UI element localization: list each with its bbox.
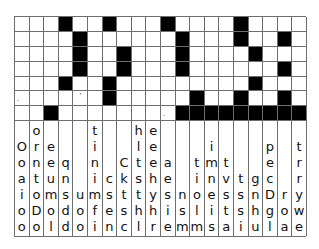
letter-tile[interactable]: e [105, 203, 113, 219]
answer-cell[interactable] [292, 77, 307, 92]
answer-cell[interactable] [59, 91, 74, 106]
answer-cell[interactable] [205, 32, 220, 47]
answer-cell[interactable] [161, 62, 176, 77]
answer-cell[interactable] [205, 77, 220, 92]
letter-tile[interactable]: u [251, 219, 259, 235]
answer-cell[interactable] [146, 32, 161, 47]
answer-cell[interactable] [161, 91, 176, 106]
answer-cell[interactable] [205, 62, 220, 77]
letter-tile[interactable]: n [91, 155, 99, 171]
letter-tile[interactable]: m [88, 187, 101, 203]
letter-tile[interactable]: e [295, 219, 303, 235]
letter-tile[interactable]: t [297, 139, 302, 155]
letter-tile[interactable]: l [268, 219, 272, 235]
answer-cell[interactable] [30, 77, 45, 92]
letter-tile[interactable]: n [178, 187, 186, 203]
letter-tile[interactable]: s [179, 203, 186, 219]
letter-tile[interactable]: t [224, 203, 229, 219]
answer-cell[interactable] [278, 47, 293, 62]
letter-tile[interactable]: w [294, 203, 305, 219]
letter-tile[interactable]: i [210, 203, 214, 219]
answer-cell[interactable] [263, 47, 278, 62]
answer-cell[interactable] [234, 62, 249, 77]
letter-tile[interactable]: h [149, 171, 157, 187]
answer-cell[interactable] [249, 32, 264, 47]
letter-tile[interactable]: u [47, 171, 55, 187]
letter-tile[interactable]: s [62, 187, 69, 203]
letter-tile[interactable]: o [18, 203, 26, 219]
letter-tile[interactable]: g [266, 203, 274, 219]
answer-cell[interactable] [132, 91, 147, 106]
answer-cell[interactable] [88, 17, 103, 32]
answer-cell[interactable] [292, 47, 307, 62]
answer-cell[interactable] [292, 32, 307, 47]
answer-cell[interactable] [263, 77, 278, 92]
letter-tile[interactable]: i [166, 203, 170, 219]
answer-cell[interactable] [219, 17, 234, 32]
letter-tile[interactable]: t [136, 187, 141, 203]
answer-cell[interactable] [117, 77, 132, 92]
answer-cell[interactable] [176, 77, 191, 92]
answer-cell[interactable] [132, 62, 147, 77]
letter-tile[interactable]: o [32, 219, 40, 235]
letter-tile[interactable]: a [222, 219, 230, 235]
answer-cell[interactable] [190, 17, 205, 32]
answer-cell[interactable] [103, 62, 118, 77]
letter-tile[interactable]: i [93, 139, 97, 155]
letter-tile[interactable]: t [194, 155, 199, 171]
answer-cell[interactable] [190, 62, 205, 77]
answer-cell[interactable] [132, 17, 147, 32]
letter-tile[interactable]: o [281, 203, 289, 219]
answer-cell[interactable] [59, 62, 74, 77]
letter-tile[interactable]: i [239, 219, 243, 235]
answer-cell[interactable] [59, 47, 74, 62]
letter-tile[interactable]: f [92, 203, 97, 219]
answer-cell[interactable] [205, 47, 220, 62]
answer-cell[interactable] [278, 77, 293, 92]
answer-cell[interactable] [88, 62, 103, 77]
letter-tile[interactable]: i [195, 171, 199, 187]
letter-tile[interactable]: m [205, 155, 218, 171]
answer-cell[interactable] [30, 47, 45, 62]
answer-cell[interactable] [234, 47, 249, 62]
letter-tile[interactable]: O [17, 139, 27, 155]
letter-tile[interactable]: s [106, 187, 113, 203]
answer-cell[interactable] [249, 17, 264, 32]
letter-tile[interactable]: n [105, 219, 113, 235]
answer-cell[interactable] [103, 47, 118, 62]
letter-tile[interactable]: e [164, 219, 172, 235]
answer-cell[interactable] [132, 106, 147, 121]
letter-tile[interactable]: n [32, 155, 40, 171]
answer-cell[interactable] [263, 17, 278, 32]
letter-tile[interactable]: o [47, 203, 55, 219]
answer-cell[interactable] [132, 77, 147, 92]
letter-tile[interactable]: y [149, 187, 157, 203]
letter-tile[interactable]: s [223, 187, 230, 203]
letter-tile[interactable]: i [210, 139, 214, 155]
answer-cell[interactable] [278, 17, 293, 32]
letter-tile[interactable]: e [208, 187, 216, 203]
letter-tile[interactable]: r [282, 187, 287, 203]
answer-cell[interactable] [44, 77, 59, 92]
letter-tile[interactable]: o [18, 219, 26, 235]
letter-tile[interactable]: t [224, 155, 229, 171]
answer-cell[interactable] [103, 32, 118, 47]
letter-tile[interactable]: h [251, 203, 259, 219]
answer-cell[interactable] [117, 106, 132, 121]
answer-cell[interactable] [59, 32, 74, 47]
letter-tile[interactable]: m [45, 187, 58, 203]
letter-tile[interactable]: s [135, 171, 142, 187]
answer-cell[interactable] [15, 77, 30, 92]
letter-tile[interactable]: d [61, 219, 69, 235]
letter-tile[interactable]: e [149, 123, 157, 139]
answer-cell[interactable] [146, 77, 161, 92]
answer-cell[interactable] [190, 47, 205, 62]
letter-tile[interactable]: n [61, 171, 69, 187]
answer-cell[interactable] [146, 47, 161, 62]
letter-tile[interactable]: h [134, 203, 142, 219]
letter-tile[interactable]: h [134, 123, 142, 139]
answer-cell[interactable] [132, 47, 147, 62]
letter-tile[interactable]: o [18, 155, 26, 171]
letter-tile[interactable]: a [164, 155, 172, 171]
letter-tile[interactable]: e [164, 171, 172, 187]
